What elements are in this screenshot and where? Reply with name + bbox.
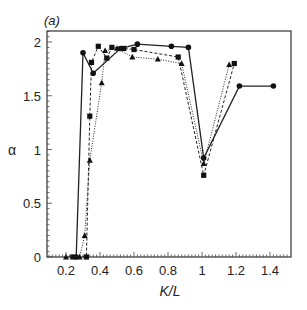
series-circle [73, 41, 276, 259]
alpha-vs-kl-chart: 0.20.40.60.811.21.4 00.511.52 (a) K/L α [0, 0, 307, 310]
square-marker [121, 46, 126, 51]
triangle-marker [155, 56, 161, 62]
series-line [73, 46, 235, 257]
square-marker [201, 173, 206, 178]
y-tick-label: 0 [34, 250, 41, 265]
x-axis-title: K/L [159, 283, 180, 299]
triangle-marker [226, 61, 232, 67]
square-marker [87, 114, 92, 119]
series-layer [63, 41, 276, 259]
circle-marker [135, 41, 141, 47]
x-tick-label: 0.6 [125, 263, 143, 278]
x-tick-label: 1.4 [261, 263, 279, 278]
series-line [76, 44, 273, 257]
triangle-marker [102, 47, 108, 53]
triangle-marker [87, 157, 93, 163]
x-tick-label: 1 [198, 263, 205, 278]
circle-marker [201, 155, 207, 161]
plot-border [47, 31, 291, 257]
x-tick-label: 0.4 [91, 263, 109, 278]
square-marker [84, 254, 89, 259]
plot-frame [47, 31, 291, 257]
square-marker [131, 47, 136, 52]
y-tick-label: 1.5 [23, 89, 41, 104]
triangle-marker [129, 54, 135, 60]
y-tick-label: 2 [34, 35, 41, 50]
y-axis-title: α [8, 142, 16, 158]
square-marker [232, 61, 237, 66]
triangle-marker [201, 160, 207, 166]
square-marker [89, 60, 94, 65]
square-marker [104, 56, 109, 61]
circle-marker [169, 44, 175, 50]
square-marker [70, 254, 75, 259]
x-tick-label: 0.8 [159, 263, 177, 278]
triangle-marker [99, 80, 105, 86]
x-tick-label: 0.2 [57, 263, 75, 278]
circle-marker [237, 83, 243, 89]
circle-marker [271, 83, 277, 89]
square-marker [176, 54, 181, 59]
series-triangle [63, 45, 232, 259]
circle-marker [80, 50, 86, 56]
circle-marker [186, 45, 192, 51]
y-tick-label: 1 [34, 143, 41, 158]
panel-label: (a) [44, 13, 60, 28]
y-tick-label: 0.5 [23, 196, 41, 211]
square-marker [96, 44, 101, 49]
y-axis: 00.511.52 [23, 31, 52, 265]
x-tick-label: 1.2 [227, 263, 245, 278]
series-square [70, 44, 237, 260]
